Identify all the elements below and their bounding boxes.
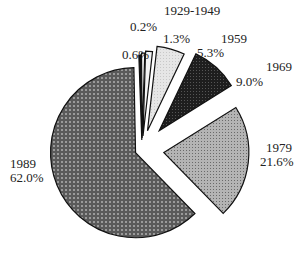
label-1929-1949: 1929-1949: [164, 4, 220, 18]
label-1989: 1989: [10, 157, 36, 171]
label-62.0-pct: 62.0%: [10, 171, 44, 185]
pie-chart: [0, 0, 302, 254]
label-9.0-pct: 9.0%: [236, 75, 263, 89]
label-1979: 1979: [266, 141, 292, 155]
label-1959: 1959: [221, 32, 247, 46]
label-0.2-pct: 0.2%: [130, 20, 157, 34]
label-1969: 1969: [266, 60, 292, 74]
pie-slices: [51, 46, 249, 237]
label-5.3-pct: 5.3%: [197, 46, 224, 60]
label-0.6-pct: 0.6%: [122, 48, 149, 62]
label-1.3-pct: 1.3%: [163, 32, 190, 46]
label-21.6-pct: 21.6%: [260, 155, 294, 169]
